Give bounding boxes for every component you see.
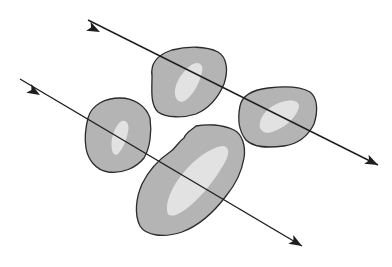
- arrowhead-icon: [86, 22, 102, 37]
- blob-right: [239, 87, 317, 147]
- diagram-canvas: [0, 0, 392, 267]
- arrowhead-icon: [364, 155, 380, 170]
- blob-left: [85, 98, 151, 172]
- diagram-svg: [0, 0, 392, 267]
- blobs-layer: [85, 47, 316, 235]
- arrowhead-icon: [288, 235, 304, 250]
